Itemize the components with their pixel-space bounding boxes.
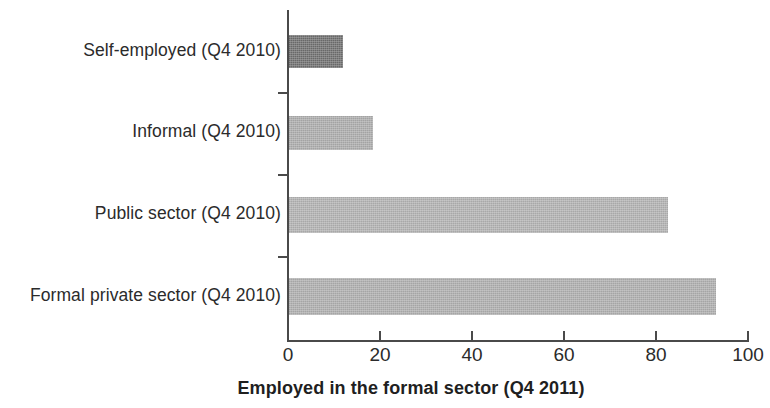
x-axis-tick-mark bbox=[287, 331, 289, 342]
bar-texture bbox=[288, 278, 716, 315]
x-axis-tick-mark bbox=[379, 331, 381, 342]
x-axis-title: Employed in the formal sector (Q4 2011) bbox=[0, 378, 770, 399]
x-axis-tick-mark bbox=[471, 331, 473, 342]
x-axis-tick-mark bbox=[563, 331, 565, 342]
bar-public-sector bbox=[288, 197, 668, 233]
y-axis-tick bbox=[278, 256, 288, 258]
x-axis-tick-label: 60 bbox=[553, 345, 574, 364]
x-axis-tick-mark bbox=[747, 331, 749, 342]
bar-chart: Self-employed (Q4 2010) Informal (Q4 201… bbox=[0, 0, 770, 408]
x-axis-tick-mark bbox=[655, 331, 657, 342]
y-axis-tick bbox=[278, 92, 288, 94]
bar-texture bbox=[288, 197, 668, 233]
x-axis-line bbox=[288, 340, 749, 342]
x-axis-tick-label: 20 bbox=[369, 345, 390, 364]
bar-formal-private-sector bbox=[288, 278, 716, 315]
bar-texture bbox=[288, 35, 343, 68]
category-label-formal-private-sector: Formal private sector (Q4 2010) bbox=[30, 287, 281, 305]
x-axis-tick-label: 80 bbox=[645, 345, 666, 364]
y-axis-tick bbox=[278, 174, 288, 176]
bar-self-employed bbox=[288, 35, 343, 68]
x-axis-tick-label: 0 bbox=[283, 345, 294, 364]
category-label-public-sector: Public sector (Q4 2010) bbox=[95, 205, 281, 223]
category-label-self-employed: Self-employed (Q4 2010) bbox=[83, 42, 281, 60]
category-label-informal: Informal (Q4 2010) bbox=[132, 123, 281, 141]
bar-informal bbox=[288, 116, 373, 150]
x-axis-tick-label: 40 bbox=[461, 345, 482, 364]
bar-texture bbox=[288, 116, 373, 150]
plot-area bbox=[288, 10, 748, 340]
x-axis-tick-label: 100 bbox=[732, 345, 764, 364]
